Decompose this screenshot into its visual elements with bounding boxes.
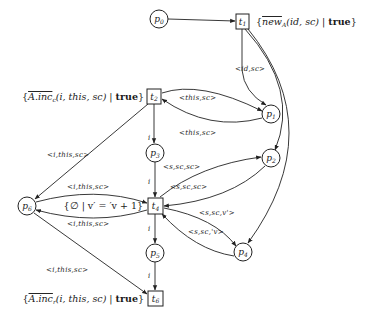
place-p6: p6 (18, 197, 36, 215)
arc-t1-p2 (245, 29, 283, 150)
arc-label-t4-p4: <s,sc,v'> (199, 209, 235, 217)
petri-net-diagram: <id,sc> <this,sc> <this,sc> i <i,this,sc… (0, 0, 368, 323)
arc-label-t4-p5: i (148, 225, 151, 233)
transition-t6: t6 (148, 291, 163, 306)
place-p3: p3 (146, 144, 164, 162)
guard-t4: {∅ | v′ = ′v + 1} (64, 200, 143, 212)
arc-label-t2-p6: <i,this,sc> (47, 151, 89, 159)
guard-t2: {A.incc(i, this, sc) | true} (22, 91, 144, 103)
arc-label-t1-p1: <id,sc> (235, 65, 265, 73)
place-p2: p2 (262, 149, 280, 167)
place-p5: p5 (146, 244, 164, 262)
arc-label-p5-t6: i (148, 272, 151, 280)
arc-label-p6-t6: <i,this,sc> (46, 266, 88, 274)
arc-t4-p6 (36, 210, 147, 218)
arc-label-t2-p3: i (148, 134, 151, 142)
guard-t1: {newA(id, sc) | true} (256, 16, 357, 28)
arc-label-p4-t4: <s,sc,'v> (188, 228, 224, 236)
arc-label-t4-p2: <s,sc,sc> (163, 163, 201, 171)
arc-label-p3-t4: i (148, 178, 151, 186)
transition-t1: t1 (236, 14, 249, 29)
arc-label-p1-t2: <this,sc> (179, 129, 216, 137)
place-p1: p1 (262, 105, 280, 123)
arc-p1-t2 (162, 99, 262, 122)
guard-labels: {newA(id, sc) | true} {A.incc(i, this, s… (22, 16, 357, 305)
transitions: t1 t2 t4 t6 (147, 14, 249, 306)
arc-label-p2-t4: <s,sc,sc> (170, 183, 208, 191)
arc-label-t4-p6: <i,this,sc> (67, 220, 109, 228)
guard-t6: {A.incr(i, this, sc) | true} (22, 293, 144, 305)
transition-t2: t2 (147, 89, 161, 104)
transition-t4: t4 (148, 198, 163, 214)
place-p4: p4 (234, 243, 252, 261)
arc-label-p6-t4: <i,this,sc> (67, 183, 109, 191)
arc-p0-t1 (168, 19, 235, 21)
arc-label-t2-p1: <this,sc> (179, 94, 216, 102)
place-p0: p0 (150, 10, 168, 28)
